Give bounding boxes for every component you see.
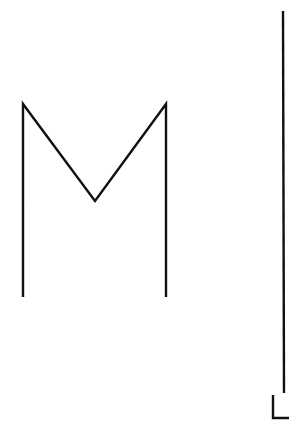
line-drawing-canvas [0,0,299,438]
l-shape [273,395,289,418]
long-vertical-line [283,11,284,393]
m-shape [23,104,166,297]
